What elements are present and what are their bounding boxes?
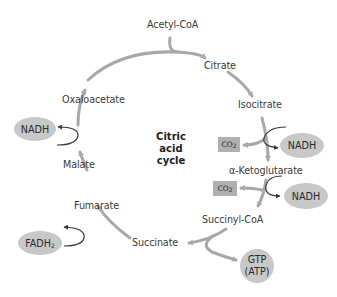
nadh-oval-ketoglutarate: NADH bbox=[284, 183, 328, 209]
nadh-oval-malate: NADH bbox=[14, 117, 56, 141]
label-succinyl-coa: Succinyl-CoA bbox=[202, 215, 263, 225]
center-title-line2: acid bbox=[148, 143, 194, 155]
label-fumarate: Fumarate bbox=[74, 201, 119, 211]
citric-acid-cycle-diagram: Acetyl-CoA Citrate Isocitrate α-Ketoglut… bbox=[0, 0, 337, 297]
co2-label: CO2 bbox=[218, 184, 233, 193]
label-succinate: Succinate bbox=[132, 238, 178, 248]
nadh-oval-isocitrate: NADH bbox=[280, 133, 324, 158]
fadh2-label: FADH2 bbox=[25, 238, 55, 249]
fadh2-oval: FADH2 bbox=[18, 231, 62, 255]
label-isocitrate: Isocitrate bbox=[238, 100, 282, 110]
center-title: Citric acid cycle bbox=[148, 131, 194, 167]
nadh-label: NADH bbox=[292, 191, 320, 202]
nadh-label: NADH bbox=[21, 124, 49, 135]
center-title-line1: Citric bbox=[148, 131, 194, 143]
co2-label: CO2 bbox=[222, 140, 237, 149]
gtp-label: GTP bbox=[248, 254, 267, 266]
label-citrate: Citrate bbox=[204, 61, 236, 71]
center-title-line3: cycle bbox=[148, 155, 194, 167]
label-malate: Malate bbox=[63, 160, 95, 170]
gtp-atp-circle: GTP (ATP) bbox=[240, 249, 274, 283]
nadh-label: NADH bbox=[288, 140, 316, 151]
co2-box-ketoglutarate: CO2 bbox=[213, 181, 237, 196]
co2-box-isocitrate: CO2 bbox=[218, 137, 240, 152]
label-alpha-ketoglutarate: α-Ketoglutarate bbox=[229, 166, 303, 176]
label-oxaloacetate: Oxaloacetate bbox=[62, 95, 125, 105]
label-acetyl-coa: Acetyl-CoA bbox=[147, 20, 198, 30]
atp-label: (ATP) bbox=[245, 266, 270, 278]
